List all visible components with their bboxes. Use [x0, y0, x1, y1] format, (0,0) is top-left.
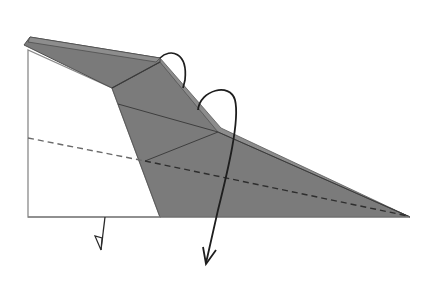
small-fold-arrow — [95, 217, 105, 250]
diagram-canvas — [0, 0, 421, 286]
origami-diagram: origami-fold-step — [0, 0, 421, 286]
